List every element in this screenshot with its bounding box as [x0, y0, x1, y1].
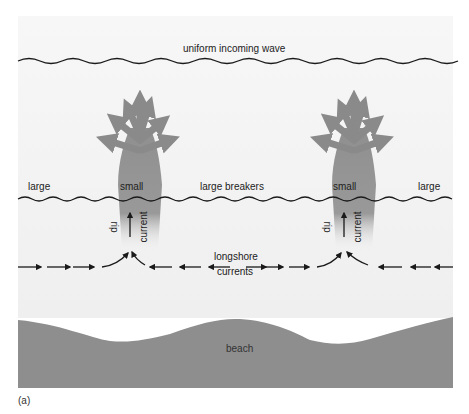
breaker-label-small-left: small: [120, 182, 143, 192]
rip-current-diagram: uniform incoming wave large small large …: [0, 0, 469, 414]
breaker-label-large-left: large: [28, 182, 50, 192]
breaker-label-large-breakers: large breakers: [200, 182, 264, 192]
currents-label: currents: [217, 267, 253, 277]
panel-label: (a): [18, 395, 30, 406]
rip-label-right: rip: [322, 221, 332, 232]
breaker-label-large-right: large: [418, 182, 440, 192]
current-label-right: current: [353, 211, 363, 242]
current-label-left: current: [139, 211, 149, 242]
breaker-label-small-right: small: [333, 182, 356, 192]
incoming-wave-label: uniform incoming wave: [183, 44, 285, 54]
rip-label-left: rip: [109, 221, 119, 232]
beach-label: beach: [226, 344, 253, 354]
longshore-label: longshore: [214, 252, 258, 262]
